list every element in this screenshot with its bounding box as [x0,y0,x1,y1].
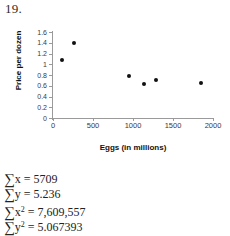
formula-value: 5709 [33,172,57,186]
formula-row: ∑x2 = 7,609,557 [4,202,85,217]
formula-clip: ∑x = 5709∑y = 5.236∑x2 = 7,609,557∑y2 = … [0,0,230,236]
page-root: 19. Price per dozen Eggs (in millions) 0… [0,0,230,236]
formula-equals: = [21,172,34,186]
summation-icon: ∑ [4,171,15,187]
formula-row: ∑x = 5709 [4,172,85,187]
summation-icon: ∑ [4,219,15,235]
formula-equals: = [21,187,34,201]
formula-value: 5.067393 [37,220,82,234]
formula-row: ∑y2 = 5.067393 [4,217,85,232]
formula-equals: = [25,220,38,234]
summation-formulas: ∑x = 5709∑y = 5.236∑x2 = 7,609,557∑y2 = … [4,172,85,232]
formula-row: ∑y = 5.236 [4,187,85,202]
formula-value: 5.236 [33,187,60,201]
summation-icon: ∑ [4,186,15,202]
